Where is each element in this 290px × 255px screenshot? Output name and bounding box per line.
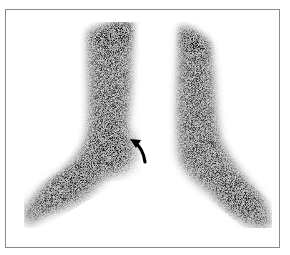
left-limb-uptake	[24, 22, 133, 225]
scintigraphy-scan	[0, 0, 290, 255]
right-limb-uptake	[178, 27, 273, 228]
